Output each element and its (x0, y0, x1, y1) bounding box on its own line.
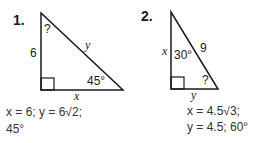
right-angle-mark-2 (171, 77, 184, 89)
problem-2-side-left: x (162, 44, 167, 59)
problem-1-answer-line2: 45° (6, 122, 24, 137)
problem-2-answer-line2: y = 4.5; 60° (187, 120, 248, 135)
problem-1-top-angle: ? (44, 22, 51, 36)
triangle-1 (41, 13, 123, 90)
problem-1-bottom-angle: 45° (87, 74, 105, 88)
problem-2-bottom-angle: ? (202, 73, 209, 87)
problem-2-base: y (191, 88, 196, 103)
problem-1-hypotenuse: y (85, 38, 90, 53)
problem-1-base: x (74, 89, 79, 104)
problem-2-hypotenuse: 9 (200, 41, 207, 55)
problem-1-answer-line1: x = 6; y = 6√2; (6, 105, 82, 120)
problem-2-answer-line1: x = 4.5√3; (187, 104, 240, 119)
right-angle-mark-1 (41, 78, 54, 90)
problem-2-top-angle: 30° (174, 48, 192, 62)
problem-1-side-left: 6 (30, 46, 37, 60)
problem-1-number: 1. (13, 12, 25, 28)
problem-2-number: 2. (141, 8, 153, 24)
